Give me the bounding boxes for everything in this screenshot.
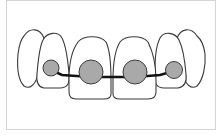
bracket-right-central — [123, 60, 147, 84]
bracket-right-lateral — [166, 62, 183, 79]
diagram-stage — [0, 0, 221, 137]
bracket-left-central — [79, 60, 103, 84]
bracket-left-lateral — [43, 60, 59, 76]
dental-braces-diagram — [0, 0, 221, 137]
